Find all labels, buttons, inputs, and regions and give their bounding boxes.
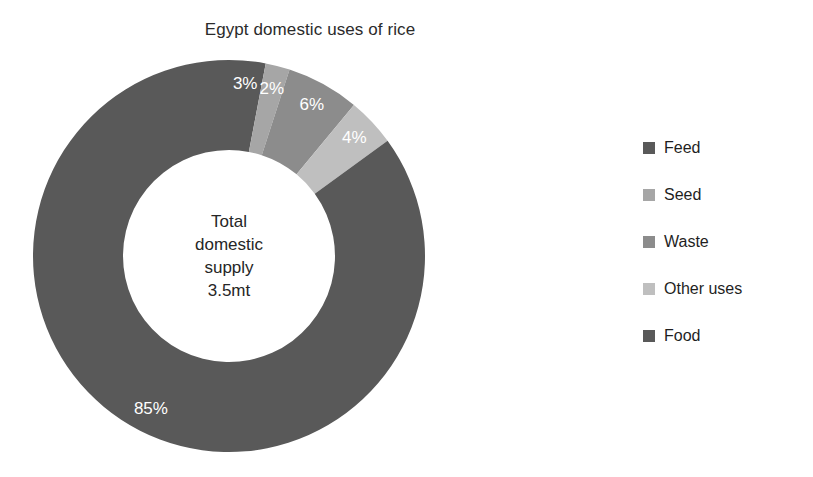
legend-item[interactable]: Seed bbox=[643, 184, 803, 206]
legend-item-label: Other uses bbox=[664, 280, 742, 298]
slice-value-label: 85% bbox=[134, 399, 168, 418]
legend-item-label: Waste bbox=[664, 233, 709, 251]
legend-item-label: Food bbox=[664, 327, 700, 345]
legend-item[interactable]: Other uses bbox=[643, 278, 803, 300]
slice-value-label: 2% bbox=[259, 79, 284, 98]
legend-item[interactable]: Food bbox=[643, 325, 803, 347]
slice-value-label: 6% bbox=[300, 95, 325, 114]
legend-item[interactable]: Feed bbox=[643, 137, 803, 159]
legend-swatch-icon bbox=[643, 236, 655, 248]
chart-title: Egypt domestic uses of rice bbox=[0, 20, 620, 40]
donut-chart: 3%2%6%4%85% bbox=[33, 60, 425, 452]
chart-legend: FeedSeedWasteOther usesFood bbox=[643, 137, 803, 372]
legend-swatch-icon bbox=[643, 189, 655, 201]
legend-swatch-icon bbox=[643, 283, 655, 295]
legend-item-label: Feed bbox=[664, 139, 700, 157]
slice-value-label: 3% bbox=[233, 74, 258, 93]
chart-container: Egypt domestic uses of rice 3%2%6%4%85% … bbox=[0, 0, 813, 477]
legend-swatch-icon bbox=[643, 330, 655, 342]
legend-item-label: Seed bbox=[664, 186, 701, 204]
legend-item[interactable]: Waste bbox=[643, 231, 803, 253]
donut-svg: 3%2%6%4%85% bbox=[33, 60, 425, 452]
legend-swatch-icon bbox=[643, 142, 655, 154]
donut-slices bbox=[33, 60, 425, 452]
slice-value-label: 4% bbox=[342, 128, 367, 147]
